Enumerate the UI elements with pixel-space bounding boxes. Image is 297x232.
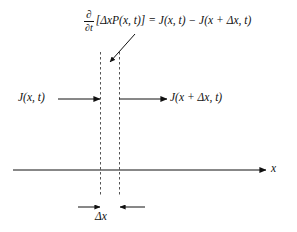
partial-derivative-fraction: ∂ ∂t — [84, 9, 94, 33]
equation-leader-arrow — [110, 34, 135, 62]
equation-body: [ΔxP(x, t)] = J(x, t) − J(x + Δx, t) — [96, 15, 252, 27]
flux-in-label: J(x, t) — [18, 92, 45, 104]
x-axis-label: x — [271, 163, 276, 175]
probability-flux-diagram: ∂ ∂t [ΔxP(x, t)] = J(x, t) − J(x + Δx, t… — [0, 0, 297, 232]
flux-out-label: J(x + Δx, t) — [170, 92, 222, 104]
cell-width-label: Δx — [95, 211, 107, 223]
diagram-canvas — [0, 0, 297, 232]
derivative-denominator: ∂t — [84, 23, 94, 34]
derivative-numerator: ∂ — [85, 9, 92, 21]
flux-balance-equation: ∂ ∂t [ΔxP(x, t)] = J(x, t) − J(x + Δx, t… — [84, 9, 251, 33]
